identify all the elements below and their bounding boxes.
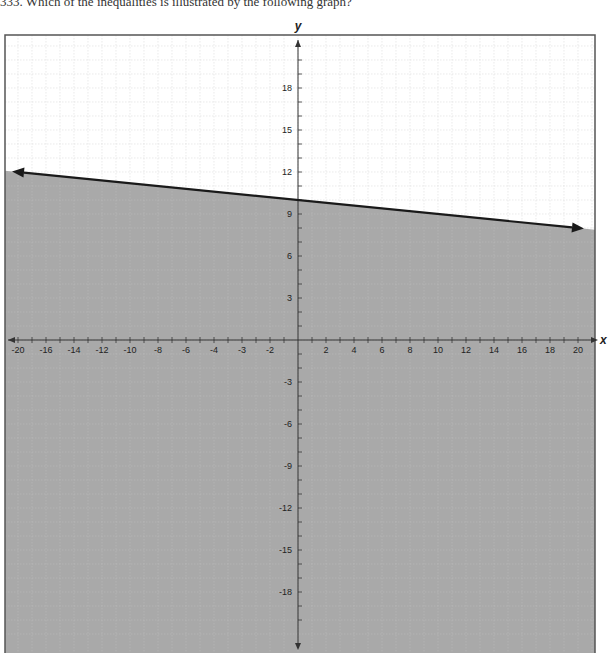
x-tick-label: 2 (323, 345, 328, 355)
x-tick-label: -4 (210, 345, 218, 355)
y-tick-label: 9 (287, 209, 292, 219)
x-tick-label: -6 (182, 345, 190, 355)
y-tick-label: -12 (279, 503, 292, 513)
x-tick-label: -16 (39, 345, 52, 355)
y-tick-label: -6 (284, 419, 292, 429)
y-tick-label: -18 (279, 587, 292, 597)
x-tick-label: 20 (573, 345, 583, 355)
x-tick-label: 12 (461, 345, 471, 355)
x-tick-label: 6 (379, 345, 384, 355)
y-tick-label: 3 (287, 293, 292, 303)
x-axis-label: x (599, 333, 608, 347)
x-tick-label: 10 (433, 345, 443, 355)
x-tick-label: 16 (517, 345, 527, 355)
x-tick-label: 8 (407, 345, 412, 355)
inequality-graph: -20-16-14-12-10-8-6-4-3-2246810121416182… (0, 0, 609, 653)
y-tick-label: 18 (282, 83, 292, 93)
x-tick-label: -12 (95, 345, 108, 355)
x-tick-label: -14 (67, 345, 80, 355)
x-tick-label: -3 (238, 345, 246, 355)
x-tick-label: -8 (154, 345, 162, 355)
y-axis-label: y (294, 19, 303, 33)
y-tick-label: 15 (282, 125, 292, 135)
x-tick-label: -2 (266, 345, 274, 355)
y-tick-label: -15 (279, 545, 292, 555)
y-tick-label: -9 (284, 461, 292, 471)
y-tick-label: 6 (287, 251, 292, 261)
shaded-region (5, 171, 595, 653)
x-tick-label: 18 (545, 345, 555, 355)
y-tick-label: -3 (284, 377, 292, 387)
x-tick-label: 14 (489, 345, 499, 355)
x-tick-label: -20 (11, 345, 24, 355)
y-tick-label: 12 (282, 167, 292, 177)
x-tick-label: 4 (351, 345, 356, 355)
x-tick-label: -10 (123, 345, 136, 355)
